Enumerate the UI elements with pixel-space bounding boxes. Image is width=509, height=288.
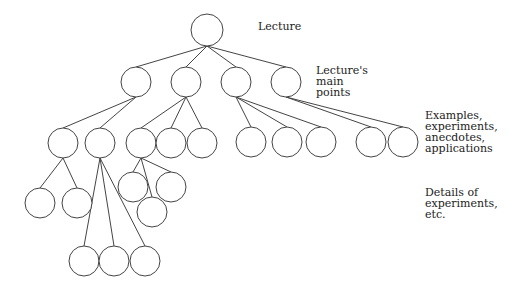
tree-node-e1	[48, 128, 78, 158]
tree-node-e10	[388, 127, 418, 157]
connector-line	[207, 46, 236, 67]
connector-line	[207, 46, 286, 67]
connector-line	[63, 97, 136, 128]
label-details: Details of experiments, etc.	[425, 187, 498, 220]
lecture-structure-diagram: Lecture Lecture's main points Examples, …	[0, 0, 509, 288]
tree-node-d7	[99, 246, 129, 276]
tree-node-d3	[118, 172, 148, 202]
tree-node-d4	[156, 172, 186, 202]
tree-node-e4	[156, 128, 186, 158]
connector-line	[141, 97, 186, 128]
tree-node-d6	[69, 246, 99, 276]
label-lecture: Lecture	[258, 21, 301, 32]
tree-node-e5	[187, 128, 217, 158]
connector-line	[286, 97, 371, 127]
connector-line	[141, 158, 171, 172]
tree-node-e2	[85, 128, 115, 158]
tree-node-m1	[121, 67, 151, 97]
tree-node-d5	[137, 197, 167, 227]
connector-line	[100, 97, 136, 128]
connector-line	[40, 158, 63, 188]
tree-node-e6	[236, 127, 266, 157]
tree-node-d2	[62, 188, 92, 218]
tree-node-e3	[126, 128, 156, 158]
tree-node-d8	[130, 246, 160, 276]
tree-node-e9	[356, 127, 386, 157]
tree-node-m4	[271, 67, 301, 97]
tree-node-e7	[272, 127, 302, 157]
tree-node-m3	[221, 67, 251, 97]
label-examples: Examples, experiments, anecdotes, applic…	[425, 110, 498, 154]
connector-line	[286, 97, 403, 127]
connector-line	[133, 158, 141, 172]
tree-node-e8	[306, 127, 336, 157]
connector-line	[63, 158, 77, 188]
tree-node-m2	[171, 67, 201, 97]
label-main-points: Lecture's main points	[316, 65, 368, 98]
tree-node-d1	[25, 188, 55, 218]
tree-node-root	[191, 14, 223, 46]
connector-line	[186, 97, 202, 128]
